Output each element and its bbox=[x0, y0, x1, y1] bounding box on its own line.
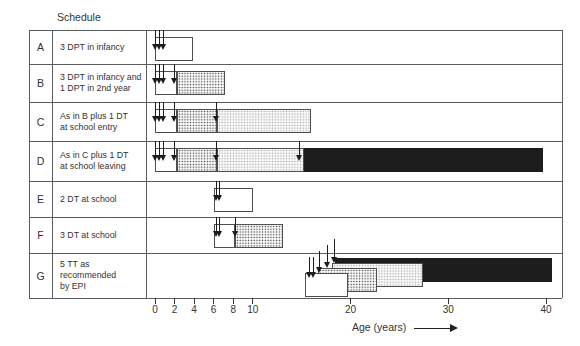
dose-arrow-line bbox=[299, 141, 300, 155]
dose-arrow-line bbox=[319, 251, 320, 267]
dose-arrow-line bbox=[163, 102, 164, 116]
dose-arrow bbox=[160, 102, 167, 122]
letter-column-divider bbox=[52, 30, 53, 298]
row-label-G: 5 TT as recommended by EPI bbox=[60, 253, 144, 298]
row-letter-A: A bbox=[29, 30, 52, 64]
axis-tick-label: 20 bbox=[339, 304, 363, 315]
down-arrow-icon bbox=[160, 78, 166, 84]
dose-arrow bbox=[296, 141, 303, 161]
bar-D-lightdots bbox=[217, 148, 304, 172]
x-axis-arrow-line bbox=[414, 328, 451, 329]
dose-arrow bbox=[160, 64, 167, 84]
dose-arrow bbox=[232, 217, 239, 237]
dose-arrow-line bbox=[163, 30, 164, 44]
axis-tick-label: 40 bbox=[534, 304, 558, 315]
down-arrow-icon bbox=[216, 195, 222, 201]
down-arrow-icon bbox=[171, 116, 177, 122]
dose-arrow bbox=[160, 141, 167, 161]
bar-D-dots bbox=[177, 148, 217, 172]
schedule-header: Schedule bbox=[57, 11, 101, 23]
vaccination-schedule-chart: Schedule A3 DPT in infancyB3 DPT in infa… bbox=[0, 0, 580, 346]
dose-arrow bbox=[316, 251, 323, 273]
down-arrow-icon bbox=[216, 231, 222, 237]
dose-arrow bbox=[213, 141, 220, 161]
dose-arrow-line bbox=[216, 102, 217, 116]
dose-arrow bbox=[216, 217, 223, 237]
row-divider bbox=[29, 298, 562, 299]
dose-arrow-line bbox=[219, 217, 220, 231]
dose-arrow-line bbox=[174, 102, 175, 116]
down-arrow-icon bbox=[296, 155, 302, 161]
bar-C-dots bbox=[177, 109, 217, 133]
axis-tick-label: 10 bbox=[241, 304, 265, 315]
down-arrow-icon bbox=[171, 78, 177, 84]
row-label-A: 3 DPT in infancy bbox=[60, 30, 144, 64]
row-label-C: As in B plus 1 DT at school entry bbox=[60, 102, 144, 141]
down-arrow-icon bbox=[213, 116, 219, 122]
dose-arrow bbox=[160, 30, 167, 50]
dose-arrow-line bbox=[174, 141, 175, 155]
dose-arrow bbox=[324, 245, 331, 268]
row-letter-F: F bbox=[29, 217, 52, 253]
row-label-D: As in C plus 1 DT at school leaving bbox=[60, 141, 144, 181]
dose-arrow bbox=[213, 102, 220, 122]
dose-arrow-line bbox=[235, 217, 236, 231]
axis-tick-label: 30 bbox=[436, 304, 460, 315]
down-arrow-icon bbox=[316, 267, 322, 273]
down-arrow-icon bbox=[331, 257, 337, 263]
dose-arrow-line bbox=[163, 141, 164, 155]
dose-arrow-line bbox=[313, 257, 314, 272]
dose-arrow bbox=[216, 181, 223, 201]
x-axis-arrow-icon bbox=[450, 324, 458, 332]
bar-F-dots bbox=[235, 224, 283, 248]
dose-arrow bbox=[171, 141, 178, 161]
down-arrow-icon bbox=[160, 116, 166, 122]
row-label-B: 3 DPT in infancy and 1 DPT in 2nd year bbox=[60, 64, 144, 102]
x-axis-label: Age (years) bbox=[352, 321, 406, 333]
row-label-E: 2 DT at school bbox=[60, 181, 144, 217]
dose-arrow-line bbox=[327, 245, 328, 262]
down-arrow-icon bbox=[160, 44, 166, 50]
row-letter-G: G bbox=[29, 253, 52, 298]
row-letter-D: D bbox=[29, 141, 52, 181]
label-column-divider bbox=[146, 30, 147, 298]
dose-arrow-line bbox=[174, 64, 175, 78]
down-arrow-icon bbox=[213, 155, 219, 161]
row-label-F: 3 DT at school bbox=[60, 217, 144, 253]
down-arrow-icon bbox=[160, 155, 166, 161]
bar-B-dots bbox=[177, 71, 226, 95]
bar-D-black bbox=[304, 148, 543, 172]
down-arrow-icon bbox=[232, 231, 238, 237]
bar-C-lightdots bbox=[217, 109, 312, 133]
row-letter-B: B bbox=[29, 64, 52, 102]
down-arrow-icon bbox=[171, 155, 177, 161]
dose-arrow bbox=[331, 239, 338, 263]
dose-arrow-line bbox=[163, 64, 164, 78]
dose-arrow bbox=[171, 102, 178, 122]
dose-arrow-line bbox=[334, 239, 335, 257]
down-arrow-icon bbox=[324, 262, 330, 268]
dose-arrow-line bbox=[216, 141, 217, 155]
dose-arrow bbox=[171, 64, 178, 84]
row-letter-C: C bbox=[29, 102, 52, 141]
dose-arrow-line bbox=[219, 181, 220, 195]
row-letter-E: E bbox=[29, 181, 52, 217]
table-right-border bbox=[562, 30, 563, 298]
